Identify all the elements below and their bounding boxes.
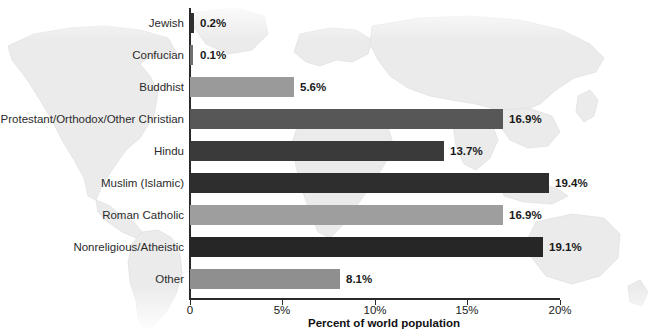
bar-fill <box>190 77 294 97</box>
x-axis-tick-label: 0 <box>187 304 193 316</box>
bar-row: Hindu 13.7% <box>0 140 656 162</box>
bar-value-label: 0.2% <box>200 12 226 34</box>
bar-row: Other 8.1% <box>0 268 656 290</box>
bar-row: Muslim (Islamic) 19.4% <box>0 172 656 194</box>
bar-row: Protestant/Orthodox/Other Christian 16.9… <box>0 108 656 130</box>
bar-value-label: 0.1% <box>200 44 226 66</box>
bar-fill <box>190 205 503 225</box>
bar-row: Confucian 0.1% <box>0 44 656 66</box>
category-label: Protestant/Orthodox/Other Christian <box>1 108 190 130</box>
category-label: Muslim (Islamic) <box>101 172 190 194</box>
category-label: Other <box>155 268 190 290</box>
bar[interactable] <box>190 77 294 97</box>
bar[interactable] <box>190 269 340 289</box>
x-axis-title: Percent of world population <box>0 317 656 329</box>
category-label: Roman Catholic <box>102 204 190 226</box>
bar-value-label: 5.6% <box>300 76 326 98</box>
bar-row: Buddhist 5.6% <box>0 76 656 98</box>
bar-fill <box>190 13 194 33</box>
bar-value-label: 19.4% <box>555 172 588 194</box>
category-label: Nonreligious/Atheistic <box>73 236 190 258</box>
bar-fill <box>190 237 543 257</box>
bar[interactable] <box>190 45 193 65</box>
x-axis-tick-label: 5% <box>274 304 291 316</box>
bar-fill <box>190 173 549 193</box>
category-label: Confucian <box>132 44 190 66</box>
x-axis-tick-label: 20% <box>548 304 571 316</box>
category-label: Buddhist <box>139 76 190 98</box>
bar-row: Nonreligious/Atheistic 19.1% <box>0 236 656 258</box>
bar[interactable] <box>190 237 543 257</box>
bar-value-label: 16.9% <box>509 204 542 226</box>
bar[interactable] <box>190 141 444 161</box>
bar[interactable] <box>190 205 503 225</box>
x-axis-tick-label: 10% <box>363 304 386 316</box>
bar-row: Roman Catholic 16.9% <box>0 204 656 226</box>
bar-fill <box>190 269 340 289</box>
bar-fill <box>190 141 444 161</box>
bar-value-label: 13.7% <box>450 140 483 162</box>
bar-value-label: 8.1% <box>346 268 372 290</box>
x-axis-tick-label: 15% <box>455 304 478 316</box>
category-label: Jewish <box>149 12 190 34</box>
category-label: Hindu <box>154 140 190 162</box>
bar[interactable] <box>190 13 194 33</box>
horizontal-bar-chart: Jewish 0.2% Confucian 0.1% Buddhist 5.6%… <box>0 0 656 332</box>
bar-row: Jewish 0.2% <box>0 12 656 34</box>
bar[interactable] <box>190 173 549 193</box>
bar-fill <box>190 109 503 129</box>
bar[interactable] <box>190 109 503 129</box>
bar-value-label: 19.1% <box>549 236 582 258</box>
bar-fill <box>190 45 193 65</box>
bar-value-label: 16.9% <box>509 108 542 130</box>
